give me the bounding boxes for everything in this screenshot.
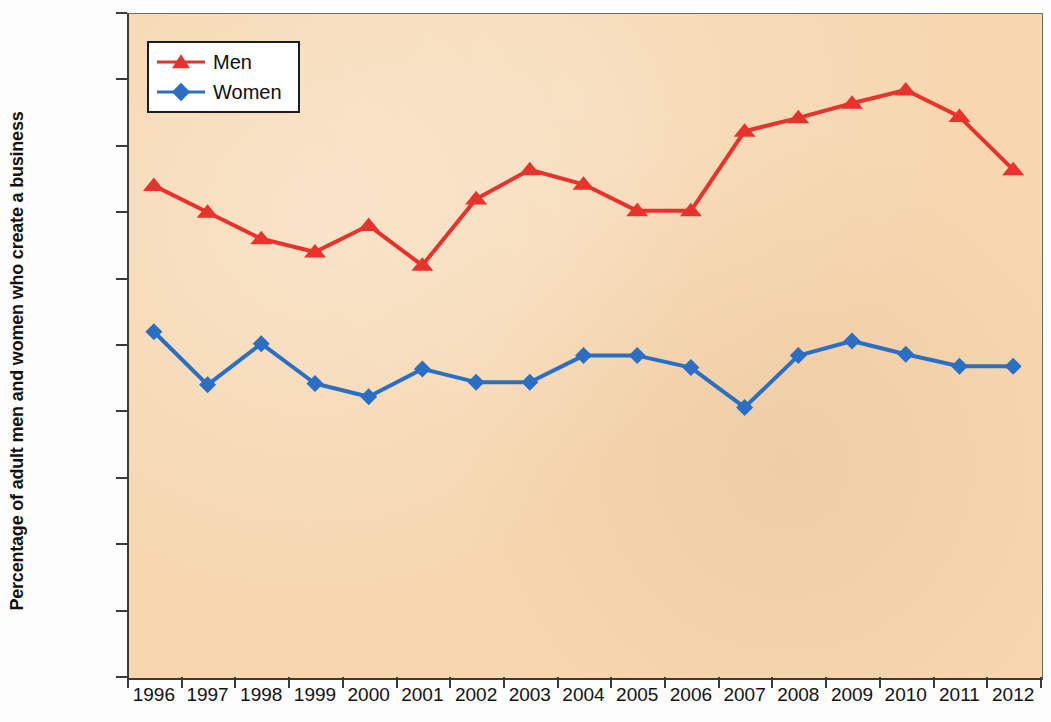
triangle-marker-icon <box>172 54 190 68</box>
x-tick-label: 1996 <box>133 684 175 706</box>
y-tick-mark <box>116 477 127 479</box>
y-tick-mark <box>116 410 127 412</box>
y-tick-mark <box>116 610 127 612</box>
y-tick-mark <box>116 543 127 545</box>
x-tick-label: 2008 <box>777 684 819 706</box>
x-tick-mark <box>449 677 451 688</box>
x-tick-mark <box>879 677 881 688</box>
y-tick-mark <box>116 211 127 213</box>
x-tick-label: 2004 <box>562 684 604 706</box>
y-axis-title: Percentage of adult men and women who cr… <box>0 0 34 722</box>
x-tick-label: 2002 <box>455 684 497 706</box>
y-tick-mark <box>116 676 127 678</box>
x-tick-label: 2010 <box>885 684 927 706</box>
legend-swatch-women <box>157 81 205 103</box>
x-tick-label: 2006 <box>670 684 712 706</box>
legend-swatch-men <box>157 51 205 73</box>
chart-figure: Percentage of adult men and women who cr… <box>0 0 1051 722</box>
legend-label-women: Women <box>213 81 282 104</box>
x-tick-mark <box>771 677 773 688</box>
x-tick-mark <box>557 677 559 688</box>
x-tick-label: 2003 <box>509 684 551 706</box>
plot-area <box>127 13 1043 680</box>
legend-label-men: Men <box>213 51 252 74</box>
x-tick-mark <box>181 677 183 688</box>
x-tick-mark <box>664 677 666 688</box>
chart-legend: Men Women <box>147 41 300 113</box>
x-tick-mark <box>986 677 988 688</box>
paper-texture-overlay <box>129 14 1042 678</box>
y-tick-mark <box>116 12 127 14</box>
x-tick-mark <box>825 677 827 688</box>
y-tick-mark <box>116 145 127 147</box>
x-tick-label: 2001 <box>401 684 443 706</box>
x-tick-label: 2005 <box>616 684 658 706</box>
x-tick-label: 2007 <box>723 684 765 706</box>
x-tick-label: 1998 <box>240 684 282 706</box>
x-tick-label: 1997 <box>186 684 228 706</box>
diamond-marker-icon <box>172 83 190 101</box>
x-tick-mark <box>1040 677 1042 688</box>
x-tick-label: 2000 <box>348 684 390 706</box>
y-tick-mark <box>116 344 127 346</box>
x-tick-label: 2011 <box>939 684 980 706</box>
x-tick-label: 1999 <box>294 684 336 706</box>
x-tick-mark <box>718 677 720 688</box>
x-tick-mark <box>610 677 612 688</box>
x-tick-mark <box>503 677 505 688</box>
x-tick-mark <box>933 677 935 688</box>
x-tick-mark <box>234 677 236 688</box>
x-tick-label: 2009 <box>831 684 873 706</box>
x-tick-label: 2012 <box>992 684 1034 706</box>
x-tick-mark <box>288 677 290 688</box>
legend-item-women[interactable]: Women <box>157 79 282 105</box>
y-tick-mark <box>116 278 127 280</box>
legend-item-men[interactable]: Men <box>157 49 282 75</box>
x-tick-mark <box>127 677 129 688</box>
y-tick-mark <box>116 78 127 80</box>
x-tick-mark <box>342 677 344 688</box>
x-tick-mark <box>396 677 398 688</box>
